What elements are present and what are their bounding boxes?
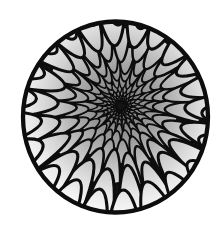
scale-tunnel-svg (0, 0, 223, 235)
scale-tunnel-figure (0, 0, 223, 235)
